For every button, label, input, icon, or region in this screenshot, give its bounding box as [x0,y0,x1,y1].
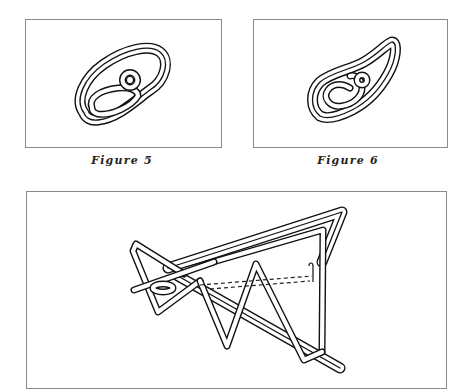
figure-7-illustration [0,0,467,391]
figure-7-wire-icon [133,212,342,368]
